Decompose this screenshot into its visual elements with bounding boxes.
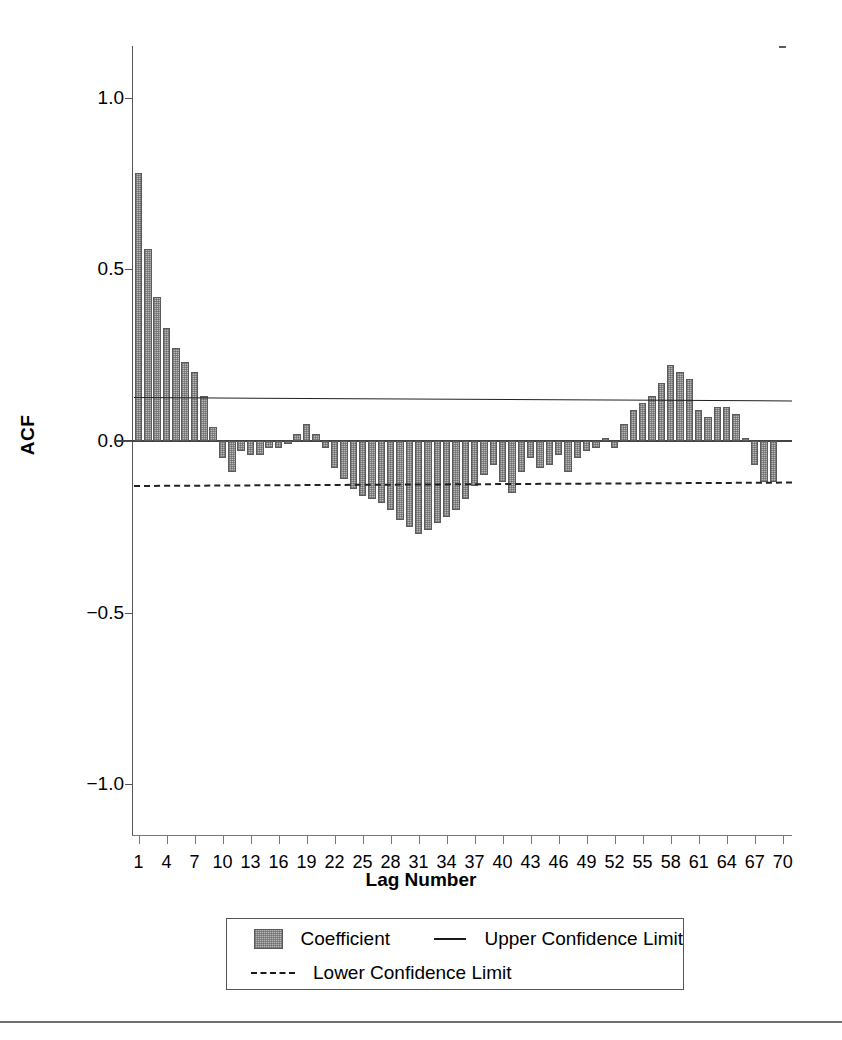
bottom-divider: [0, 1021, 842, 1023]
bar: [424, 441, 431, 530]
bar: [639, 403, 646, 441]
x-axis-tick-mark: [223, 836, 224, 844]
legend-upper-confidence-line-icon: [434, 938, 466, 940]
x-axis-tick-mark: [195, 836, 196, 844]
bar: [368, 441, 375, 499]
bar: [350, 441, 357, 489]
bar: [676, 372, 683, 441]
x-axis-tick-mark: [363, 836, 364, 844]
y-axis-tick-label: −0.5: [62, 602, 124, 624]
legend-lower-confidence-line-icon: [251, 972, 295, 974]
bar: [583, 441, 590, 451]
bar: [237, 441, 244, 451]
bar: [378, 441, 385, 503]
x-axis-tick-mark: [447, 836, 448, 844]
upper-confidence-limit-line: [134, 397, 792, 401]
bar: [574, 441, 581, 458]
x-axis-tick-mark: [307, 836, 308, 844]
y-axis-tick-mark: [125, 98, 132, 99]
legend-label-upper-confidence-limit: Upper Confidence Limit: [484, 928, 683, 950]
bar: [555, 441, 562, 455]
bar: [518, 441, 525, 472]
legend-row-top: Coefficient Upper Confidence Limit: [227, 921, 683, 957]
bar: [723, 407, 730, 441]
bar: [415, 441, 422, 534]
bar: [695, 410, 702, 441]
legend-coefficient-swatch-icon: [254, 929, 283, 949]
bar: [667, 365, 674, 441]
acf-correlogram-figure: ACF 1.00.50.0−0.5−1.0 147101316192225283…: [0, 0, 842, 1040]
bar: [331, 441, 338, 468]
legend-row-bottom: Lower Confidence Limit: [227, 955, 683, 991]
bar: [228, 441, 235, 472]
x-axis-tick-mark: [755, 836, 756, 844]
bar: [396, 441, 403, 520]
bar: [471, 441, 478, 486]
bar: [648, 396, 655, 441]
x-axis-tick-mark: [391, 836, 392, 844]
x-axis-tick-mark: [643, 836, 644, 844]
y-axis-tick-label: 1.0: [62, 87, 124, 109]
x-axis-tick-mark: [251, 836, 252, 844]
bar: [200, 396, 207, 441]
plot-area: 1471013161922252831343740434649525558616…: [132, 46, 792, 836]
bar: [163, 328, 170, 441]
x-axis-tick-mark: [783, 836, 784, 844]
y-axis-tick-mark: [125, 784, 132, 785]
x-axis-tick-mark: [587, 836, 588, 844]
bar: [219, 441, 226, 458]
bar: [265, 441, 272, 448]
x-axis-tick-mark: [727, 836, 728, 844]
x-axis-tick-mark: [615, 836, 616, 844]
x-axis-tick-mark: [671, 836, 672, 844]
legend-label-coefficient: Coefficient: [301, 928, 390, 950]
bar: [592, 441, 599, 448]
bar: [144, 249, 151, 441]
bar: [658, 383, 665, 441]
bar: [322, 441, 329, 448]
y-axis-tick-label: 0.5: [62, 258, 124, 280]
x-axis-tick-mark: [559, 836, 560, 844]
bar: [564, 441, 571, 472]
x-axis-tick-mark: [279, 836, 280, 844]
bar: [714, 407, 721, 441]
bar: [303, 424, 310, 441]
x-axis-tick-mark: [139, 836, 140, 844]
y-axis-title-text: ACF: [17, 415, 39, 456]
y-axis-title: ACF: [8, 380, 48, 490]
bar: [191, 372, 198, 441]
bar: [434, 441, 441, 523]
bar: [462, 441, 469, 499]
bar: [527, 441, 534, 458]
bar: [779, 46, 786, 48]
bar: [686, 379, 693, 441]
bar: [760, 441, 767, 482]
bar: [480, 441, 487, 475]
bar: [209, 427, 216, 441]
y-axis-tick-label: −1.0: [62, 773, 124, 795]
x-axis-tick-mark: [475, 836, 476, 844]
bar: [732, 414, 739, 441]
x-axis-tick-mark: [419, 836, 420, 844]
x-axis-line: [132, 835, 792, 836]
x-axis-title: Lag Number: [0, 869, 842, 891]
bar: [340, 441, 347, 479]
x-axis-tick-mark: [699, 836, 700, 844]
bar: [611, 441, 618, 448]
bar: [620, 424, 627, 441]
bar: [293, 434, 300, 441]
bar: [312, 434, 319, 441]
bar: [742, 438, 749, 441]
x-axis-tick-mark: [167, 836, 168, 844]
bar: [275, 441, 282, 448]
bar: [284, 441, 291, 444]
bar: [490, 441, 497, 465]
bar: [770, 441, 777, 482]
bar: [704, 417, 711, 441]
y-axis-tick-mark: [125, 613, 132, 614]
bar: [452, 441, 459, 510]
x-axis-tick-mark: [335, 836, 336, 844]
bar: [630, 410, 637, 441]
bar: [172, 348, 179, 441]
bar: [256, 441, 263, 455]
